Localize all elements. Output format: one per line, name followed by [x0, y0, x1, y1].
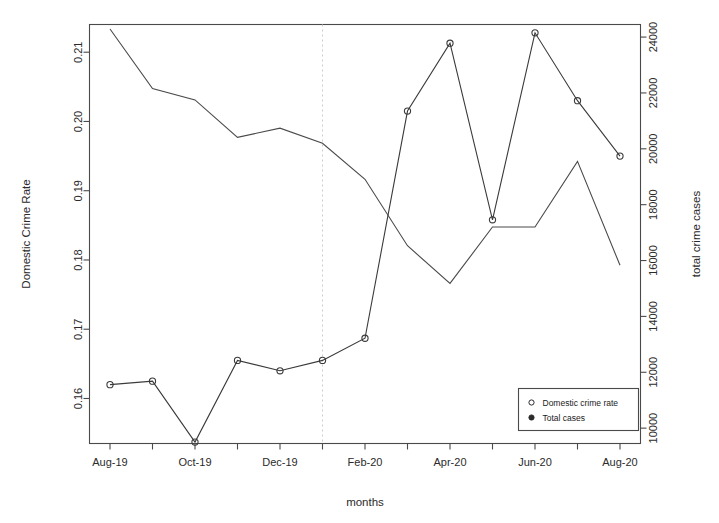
chart-svg: 0.160.170.180.190.200.21 100001200014000… — [0, 0, 719, 523]
x-axis-tick-label: Dec-19 — [262, 456, 297, 468]
right-axis-tick-label: 12000 — [648, 357, 660, 388]
chart-container: 0.160.170.180.190.200.21 100001200014000… — [0, 0, 719, 523]
chart-background — [0, 0, 719, 523]
left-axis-tick-label: 0.17 — [73, 319, 85, 340]
left-axis-tick-label: 0.19 — [73, 180, 85, 201]
x-axis-tick-label: Oct-19 — [178, 456, 211, 468]
y2-axis-title: total crime cases — [690, 191, 702, 278]
chart-legend: Domestic crime rateTotal cases — [519, 389, 639, 431]
left-axis-tick-label: 0.20 — [73, 111, 85, 132]
y-axis-title: Domestic Crime Rate — [20, 179, 32, 288]
right-axis-tick-label: 22000 — [648, 78, 660, 109]
x-axis-tick-label: Jun-20 — [518, 456, 552, 468]
left-axis-tick-label: 0.18 — [73, 249, 85, 270]
left-axis-tick-label: 0.21 — [73, 41, 85, 62]
right-axis-tick-label: 24000 — [648, 22, 660, 53]
right-axis-tick-label: 20000 — [648, 134, 660, 165]
right-axis-tick-label: 14000 — [648, 301, 660, 332]
right-axis-tick-label: 18000 — [648, 189, 660, 220]
x-axis-title: months — [346, 496, 384, 508]
legend-marker-filled-circle-icon — [529, 415, 534, 420]
legend-item-label: Total cases — [543, 413, 586, 423]
legend-box — [519, 389, 639, 431]
right-axis-tick-label: 10000 — [648, 413, 660, 444]
legend-item-label: Domestic crime rate — [543, 398, 619, 408]
left-axis-tick-label: 0.16 — [73, 388, 85, 409]
x-axis-tick-label: Aug-19 — [92, 456, 127, 468]
x-axis-tick-label: Aug-20 — [602, 456, 637, 468]
x-axis-tick-label: Apr-20 — [433, 456, 466, 468]
x-axis-tick-label: Feb-20 — [348, 456, 383, 468]
right-axis-tick-label: 16000 — [648, 245, 660, 276]
